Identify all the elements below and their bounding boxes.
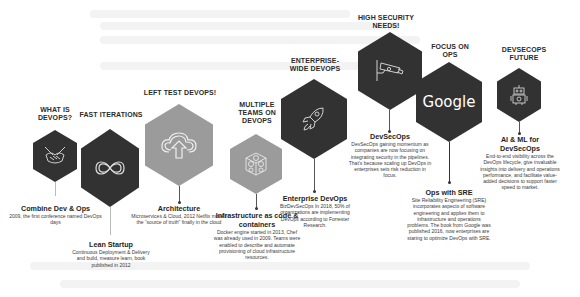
stage-heading: AI & ML for DevSecOps xyxy=(480,135,560,153)
stage-title: WHAT IS DEVOPS? xyxy=(30,106,80,122)
background-text-line xyxy=(100,36,420,44)
stage-title: DEVSECOPS FUTURE xyxy=(494,46,554,62)
security-camera-icon xyxy=(374,59,406,83)
cloud-upload-icon xyxy=(159,130,199,160)
stage-description: AI & ML for DevSecOps End-to-end visibil… xyxy=(480,135,560,191)
stage-heading: Combine Dev & Ops xyxy=(8,204,103,213)
stage-body: Site Reliability Engineering (SRE) incor… xyxy=(407,197,490,241)
rocket-icon xyxy=(301,105,327,133)
stage-title: ENTERPRISE-WIDE DEVOPS xyxy=(284,57,346,73)
stage-heading: Lean Startup xyxy=(68,240,154,249)
connector-line xyxy=(449,142,450,182)
stage-description: DevSecOps DevSecOps gaining momentum as … xyxy=(348,132,432,179)
stage-hexagon xyxy=(497,68,541,122)
stage-description: Combine Dev & Ops 2009, the first confer… xyxy=(8,204,103,226)
connector-line xyxy=(179,186,180,202)
connector-dot xyxy=(448,181,451,184)
background-text-line xyxy=(90,10,350,18)
stage-heading: Enterprise DevOps xyxy=(272,194,358,203)
google-logo: Google xyxy=(423,93,476,111)
connector-line xyxy=(256,194,257,208)
stage-hexagon xyxy=(281,79,347,159)
connector-line xyxy=(314,159,315,192)
connector-dot xyxy=(313,190,316,193)
stage-hexagon xyxy=(33,130,77,182)
stage-body: Continuous Deployment & Delivery and bui… xyxy=(72,249,150,268)
containers-cube-icon xyxy=(243,151,269,177)
stage-hexagon xyxy=(230,134,282,194)
stage-title: HIGH SECURITY NEEDS! xyxy=(352,14,420,30)
stage-title: LEFT TEST DEVOPS! xyxy=(140,89,220,97)
stage-hexagon: Google xyxy=(416,62,482,142)
connector-line xyxy=(55,182,56,196)
stage-title: FAST ITERATIONS xyxy=(78,111,144,119)
background-text-line xyxy=(60,280,520,288)
stage-body: Docker engine started in 2013, Chef was … xyxy=(214,229,300,260)
stage-description: Lean Startup Continuous Deployment & Del… xyxy=(68,240,154,268)
stage-body: 2009, the first conference named DevOps … xyxy=(9,213,102,225)
handshake-icon xyxy=(42,145,68,167)
stage-hexagon xyxy=(145,104,213,186)
infinity-icon xyxy=(93,159,127,177)
connector-dot xyxy=(255,207,258,210)
stage-description: Enterprise DevOps BizDevSecOps In 2018, … xyxy=(272,194,358,228)
stage-hexagon xyxy=(81,129,139,207)
stage-heading: DevSecOps xyxy=(348,132,432,141)
connector-line xyxy=(389,110,390,132)
stage-title: FOCUS ON OPS xyxy=(425,43,475,59)
connector-line xyxy=(110,207,111,235)
robot-icon xyxy=(510,84,528,106)
stage-title: MULTIPLE TEAMS ON DEVOPS xyxy=(232,101,282,125)
stage-body: DevSecOps gaining momentum as companies … xyxy=(349,141,431,178)
stage-body: End-to-end visibility across the DevOps … xyxy=(480,153,560,190)
stage-heading: Ops with SRE xyxy=(407,188,491,197)
stage-description: Ops with SRE Site Reliability Engineerin… xyxy=(407,188,491,241)
stage-body: BizDevSecOps In 2018, 50% of organizatio… xyxy=(280,203,350,228)
